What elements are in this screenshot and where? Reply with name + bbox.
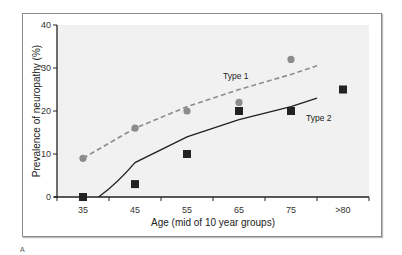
type2-point <box>235 107 243 115</box>
type2-point <box>287 107 295 115</box>
plot-background <box>57 25 369 197</box>
type1-label: Type 1 <box>223 71 249 81</box>
chart-plot: 0102030403545556575>80 Type 1 Type 2 Age… <box>0 0 402 255</box>
y-tick-label: 20 <box>41 106 51 116</box>
type2-point <box>339 86 347 94</box>
type2-point <box>131 180 139 188</box>
type1-point <box>235 99 242 106</box>
y-tick-label: 30 <box>41 63 51 73</box>
x-axis-title: Age (mid of 10 year groups) <box>151 217 275 228</box>
x-tick-label: 65 <box>234 205 244 215</box>
type1-point <box>287 56 294 63</box>
type1-point <box>79 155 86 162</box>
type1-point <box>183 107 190 114</box>
x-tick-label: 35 <box>78 205 88 215</box>
type2-point <box>183 150 191 158</box>
x-tick-label: >80 <box>335 205 350 215</box>
type2-label: Type 2 <box>306 113 332 123</box>
x-tick-label: 45 <box>130 205 140 215</box>
x-tick-label: 55 <box>182 205 192 215</box>
y-tick-label: 10 <box>41 149 51 159</box>
figure-mark: A <box>20 246 25 253</box>
type1-point <box>131 125 138 132</box>
y-axis-title: Prevalence of neuropathy (%) <box>31 45 42 177</box>
y-tick-label: 40 <box>41 20 51 30</box>
x-tick-label: 75 <box>286 205 296 215</box>
y-tick-label: 0 <box>46 192 51 202</box>
